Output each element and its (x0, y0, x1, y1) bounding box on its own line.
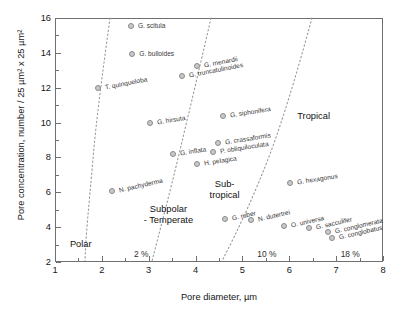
y-tick-label: 12 (25, 83, 51, 93)
data-point (109, 188, 115, 194)
y-tick-minor (56, 70, 59, 71)
x-tick-label: 2 (99, 265, 104, 275)
data-point (95, 85, 101, 91)
region-label-subpolar-temperate: Subpolar - Temperate (144, 204, 193, 226)
x-tick-minor (78, 258, 79, 261)
isoline-label: 2 % (134, 249, 148, 259)
data-point (179, 73, 185, 79)
x-tick-label: 5 (240, 265, 245, 275)
data-point (128, 23, 134, 29)
data-point (248, 217, 254, 223)
region-label-sub-tropical: Sub- tropical (210, 179, 240, 201)
x-tick (336, 256, 337, 261)
y-tick (56, 18, 61, 19)
x-tick (289, 256, 290, 261)
x-tick-minor (219, 258, 220, 261)
data-point (210, 149, 216, 155)
y-tick-minor (56, 105, 59, 106)
y-tick (56, 53, 61, 54)
x-tick (55, 256, 56, 261)
y-tick-label: 6 (25, 187, 51, 197)
y-tick-minor (56, 140, 59, 141)
y-tick-label: 2 (25, 257, 51, 267)
data-point-label: G. scitula (138, 21, 165, 28)
x-tick-label: 7 (334, 265, 339, 275)
x-tick-label: 6 (287, 265, 292, 275)
isoline-label: 10 % (257, 249, 276, 259)
data-point (281, 223, 287, 229)
x-tick-minor (313, 258, 314, 261)
y-tick (56, 157, 61, 158)
data-point (194, 63, 200, 69)
y-tick-minor (56, 35, 59, 36)
region-label-polar: Polar (70, 238, 92, 249)
data-point (222, 216, 228, 222)
data-point-label: G. bulloides (139, 49, 174, 56)
y-tick-label: 14 (25, 48, 51, 58)
y-tick-label: 10 (25, 118, 51, 128)
data-point (325, 229, 331, 235)
y-tick (56, 227, 61, 228)
x-tick-label: 1 (52, 265, 57, 275)
y-tick-label: 4 (25, 222, 51, 232)
x-tick-minor (125, 258, 126, 261)
region-label-tropical: Tropical (297, 111, 330, 122)
data-point (194, 161, 200, 167)
data-point (129, 51, 135, 57)
y-tick-minor (56, 245, 59, 246)
x-tick (102, 256, 103, 261)
y-tick-minor (56, 210, 59, 211)
x-axis-label: Pore diameter, µm (55, 292, 383, 302)
x-tick (149, 256, 150, 261)
x-tick (196, 256, 197, 261)
x-tick-minor (172, 258, 173, 261)
data-point (215, 140, 221, 146)
y-tick-label: 16 (25, 13, 51, 23)
y-tick-label: 8 (25, 152, 51, 162)
pore-morphology-scatter-chart: Pore concentration, number / 25 µm² x 25… (0, 0, 399, 317)
y-tick (56, 88, 61, 89)
data-point (147, 120, 153, 126)
x-tick-label: 3 (146, 265, 151, 275)
x-tick (383, 256, 384, 261)
data-point (170, 151, 176, 157)
y-tick (56, 123, 61, 124)
y-tick (56, 262, 61, 263)
x-tick-label: 8 (380, 265, 385, 275)
y-tick-minor (56, 175, 59, 176)
x-tick-label: 4 (193, 265, 198, 275)
x-tick (242, 256, 243, 261)
isoline-label: 18 % (341, 249, 360, 259)
y-tick (56, 192, 61, 193)
data-point (220, 113, 226, 119)
data-point (306, 225, 312, 231)
data-point (287, 180, 293, 186)
data-point (329, 235, 335, 241)
